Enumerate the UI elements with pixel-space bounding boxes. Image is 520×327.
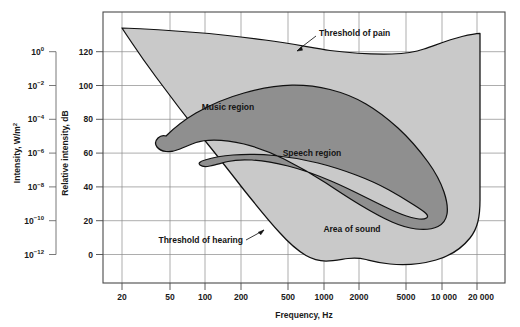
y-secondary-tick-labels: 100 10−2 10−4 10−6 10−8 10−10 10−12 — [24, 46, 44, 259]
y-label-0: 0 — [88, 250, 93, 260]
x-label-10000: 10 000 — [431, 292, 457, 302]
y2-exponent-1e-6: −6 — [37, 148, 45, 154]
y2-exponent-1e-12: −12 — [34, 249, 45, 255]
y-primary-tick-labels: 120 100 80 60 40 20 0 — [79, 47, 93, 260]
y2-mantissa-1e-8: 10 — [28, 182, 38, 192]
x-label-100: 100 — [198, 292, 212, 302]
threshold-of-hearing-label: Threshold of hearing — [158, 235, 243, 245]
y2-mantissa-1e-6: 10 — [28, 148, 38, 158]
x-ticks — [122, 283, 477, 290]
speech-region-label: Speech region — [283, 148, 342, 158]
x-label-500: 500 — [281, 292, 295, 302]
y-label-40: 40 — [84, 182, 94, 192]
y-label-100: 100 — [79, 81, 93, 91]
y2-label-1e-2: 10−2 — [28, 80, 45, 91]
audiogram-chart: 20 50 100 200 500 1000 2000 5000 10 000 … — [0, 0, 520, 327]
y2-mantissa-1e-10: 10 — [24, 216, 34, 226]
x-label-5000: 5000 — [397, 292, 416, 302]
x-label-2000: 2000 — [350, 292, 369, 302]
x-label-20: 20 — [117, 292, 127, 302]
y2-mantissa-1e-4: 10 — [28, 114, 38, 124]
audiogram-figure: 20 50 100 200 500 1000 2000 5000 10 000 … — [0, 0, 520, 327]
y2-label-1e-12: 10−12 — [24, 249, 44, 260]
y2-exponent-1e-2: −2 — [37, 80, 45, 86]
y2-mantissa-1e-2: 10 — [28, 81, 38, 91]
music-region-label: Music region — [202, 102, 254, 112]
threshold-of-pain-label: Threshold of pain — [319, 28, 390, 38]
y2-label-1e0: 100 — [31, 46, 44, 57]
y-primary-axis-title: Relative intensity, dB — [60, 110, 70, 195]
y2-mantissa-1e0: 10 — [31, 47, 41, 57]
y-secondary-axis-title: Intensity, W/m2 — [12, 122, 23, 183]
y-secondary-axis-title-text: Intensity, W/m — [12, 126, 22, 183]
x-label-1000: 1000 — [315, 292, 334, 302]
y2-exponent-1e0: 0 — [41, 46, 45, 52]
y2-exponent-1e-10: −10 — [34, 215, 45, 221]
y2-label-1e-6: 10−6 — [28, 148, 45, 159]
area-of-sound-label: Area of sound — [323, 224, 380, 234]
y2-exponent-1e-8: −8 — [37, 182, 45, 188]
y-label-120: 120 — [79, 47, 93, 57]
y2-label-1e-4: 10−4 — [28, 114, 45, 125]
y2-mantissa-1e-12: 10 — [24, 250, 34, 260]
y-label-80: 80 — [84, 114, 94, 124]
x-label-20000: 20 000 — [468, 292, 494, 302]
y2-label-1e-10: 10−10 — [24, 215, 44, 226]
y2-label-1e-8: 10−8 — [28, 182, 45, 193]
x-label-50: 50 — [165, 292, 175, 302]
y2-exponent-1e-4: −4 — [37, 114, 45, 120]
y-label-60: 60 — [84, 148, 94, 158]
x-tick-labels: 20 50 100 200 500 1000 2000 5000 10 000 … — [117, 292, 494, 302]
y-secondary-ticks — [49, 52, 56, 255]
x-axis-title: Frequency, Hz — [275, 310, 332, 320]
y-label-20: 20 — [84, 216, 94, 226]
y-secondary-axis-title-exponent: 2 — [12, 122, 18, 126]
x-label-200: 200 — [234, 292, 248, 302]
y-primary-ticks — [96, 52, 103, 255]
